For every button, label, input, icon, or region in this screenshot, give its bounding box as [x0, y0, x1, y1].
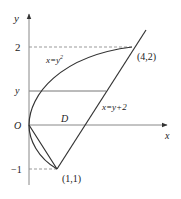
tick-label-neg-1: −1 [11, 164, 22, 175]
region-label: D [60, 113, 69, 124]
tick-label-2: 2 [15, 41, 21, 53]
parabola-label: x=y2 [45, 54, 63, 65]
point-label-upper: (4,2) [137, 51, 156, 63]
x-axis-label: x [164, 130, 170, 141]
diagram-canvas: y x O 2 y −1 x=y2 x=y+2 D (4,2) (1,1) [0, 0, 181, 199]
line-label: x=y+2 [101, 102, 127, 112]
point-label-lower: (1,1) [62, 173, 81, 185]
line-x-eq-y-plus-2 [57, 30, 146, 169]
tick-label-y: y [14, 85, 20, 96]
y-axis-label: y [13, 12, 19, 24]
origin-label: O [14, 120, 21, 131]
